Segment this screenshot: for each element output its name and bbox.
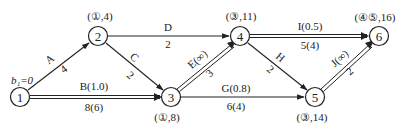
edge-C-label: C [128, 50, 141, 64]
edge-C-duration: 2 [125, 69, 137, 82]
edge-B-label: B(1.0) [80, 80, 109, 93]
edge-A-duration: 4 [58, 62, 70, 75]
edge-G: G(0.8) 6(4) [181, 82, 304, 113]
node-4-number: 4 [237, 29, 244, 44]
node-6-annotation: (④⑤,16) [354, 11, 395, 24]
node-2-annotation: (①,4) [87, 10, 113, 23]
edge-J: J(∞) 2 [321, 40, 374, 92]
edge-G-duration: 6(4) [227, 100, 246, 113]
edge-C: C 2 [106, 43, 163, 90]
edge-D-label: D [164, 21, 172, 33]
edge-I-label: I(0.5) [298, 20, 323, 33]
edge-I-duration: 5(4) [301, 39, 320, 52]
node-5: 5 (③,14) [296, 88, 327, 125]
node-2-number: 2 [95, 29, 102, 44]
node-3-annotation: (①,8) [154, 111, 180, 124]
node-4-annotation: (③,11) [226, 10, 257, 23]
node-6-number: 6 [376, 29, 383, 44]
node-5-number: 5 [312, 90, 319, 105]
network-diagram: A 4 B(1.0) 8(6) C 2 D 2 E(∞) 3 G(0.8) 6(… [0, 0, 412, 126]
node-6: 6 (④⑤,16) [354, 11, 395, 46]
edge-G-label: G(0.8) [221, 82, 250, 95]
edge-D: D 2 [108, 21, 229, 50]
edge-A-label: A [43, 52, 57, 66]
node-3-number: 3 [168, 90, 175, 105]
edge-H: H 2 [248, 43, 307, 90]
edge-B: B(1.0) 8(6) [30, 80, 162, 114]
node-1: 1 b₁=0 [11, 74, 34, 107]
node-1-number: 1 [17, 90, 24, 105]
edge-J-duration: 2 [343, 65, 355, 78]
node-4: 4 (③,11) [226, 10, 257, 46]
edge-E-duration: 3 [203, 66, 215, 79]
node-1-annotation: b₁=0 [11, 74, 34, 86]
edge-B-duration: 8(6) [85, 101, 104, 114]
node-5-annotation: (③,14) [296, 111, 327, 124]
node-2: 2 (①,4) [87, 10, 113, 46]
edge-H-label: H [274, 50, 288, 64]
edge-D-duration: 2 [165, 38, 171, 50]
node-3: 3 (①,8) [154, 88, 180, 125]
edge-H-duration: 2 [265, 63, 277, 76]
edge-I: I(0.5) 5(4) [250, 20, 369, 52]
